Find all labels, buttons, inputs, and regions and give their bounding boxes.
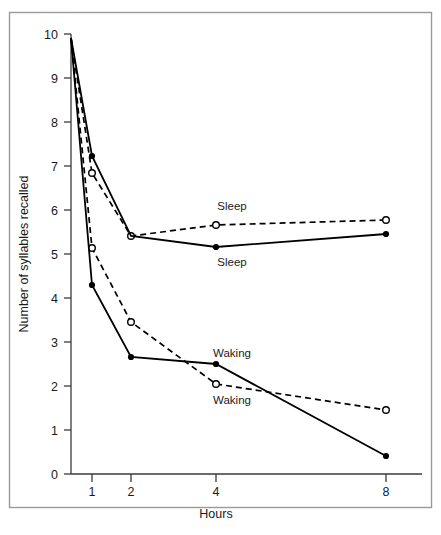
figure-container: 10 9 8 7 6 5 4 3 2 1 0 1 2 4 8 Hours [0,0,441,535]
y-tick-label: 3 [51,336,58,350]
annotation-waking-dashed: Waking [213,394,251,406]
data-point [383,231,389,237]
x-tick-label: 4 [213,485,220,499]
data-point [383,453,389,459]
annotation-waking-solid: Waking [213,347,251,359]
y-tick-label: 9 [51,72,58,86]
data-point [89,153,95,159]
y-tick-label: 4 [51,292,58,306]
data-point [213,361,219,367]
data-point [213,222,220,229]
data-point [89,282,95,288]
y-tick-label: 0 [51,468,58,482]
data-point [89,170,96,177]
x-axis-title: Hours [199,507,232,521]
y-tick-label: 5 [51,248,58,262]
data-point [383,407,390,414]
data-point [128,319,135,326]
data-point [383,217,390,224]
annotation-sleep-solid: Sleep [217,256,246,268]
y-axis-title: Number of syllables recalled [17,175,31,332]
y-tick-label: 6 [51,204,58,218]
y-tick-label: 8 [51,116,58,130]
data-point [213,244,219,250]
y-tick-label: 10 [44,28,58,42]
line-chart: 10 9 8 7 6 5 4 3 2 1 0 1 2 4 8 Hours [0,0,441,535]
annotation-sleep-dashed: Sleep [217,200,246,212]
y-tick-label: 2 [51,380,58,394]
data-point [213,381,220,388]
x-tick-label: 8 [383,485,390,499]
y-tick-label: 7 [51,160,58,174]
x-tick-label: 1 [89,485,96,499]
data-point [128,354,134,360]
y-tick-label: 1 [51,424,58,438]
x-tick-label: 2 [128,485,135,499]
